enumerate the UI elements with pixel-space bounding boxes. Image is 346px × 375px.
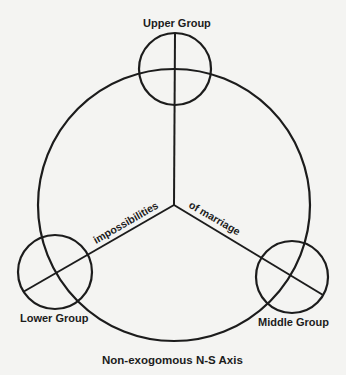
diagram-canvas: Upper Group Lower Group Middle Group Non… xyxy=(0,0,346,375)
middle-group-label: Middle Group xyxy=(258,316,329,328)
spoke-upper xyxy=(174,33,175,205)
spoke-lower-right xyxy=(174,205,323,295)
upper-group-label: Upper Group xyxy=(143,17,211,29)
spoke-left-label: impossibilities xyxy=(91,199,160,246)
axis-label: Non-exogomous N-S Axis xyxy=(102,354,243,366)
kinship-diagram: Upper Group Lower Group Middle Group Non… xyxy=(0,0,346,375)
lower-group-label: Lower Group xyxy=(20,312,89,324)
